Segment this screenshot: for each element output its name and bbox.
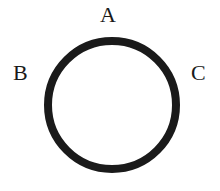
circle-figure — [0, 0, 220, 191]
label-b: B — [13, 62, 28, 84]
diagram-canvas: A B C — [0, 0, 220, 191]
label-a: A — [100, 4, 116, 26]
ring-circle — [48, 41, 176, 169]
label-c: C — [191, 62, 206, 84]
